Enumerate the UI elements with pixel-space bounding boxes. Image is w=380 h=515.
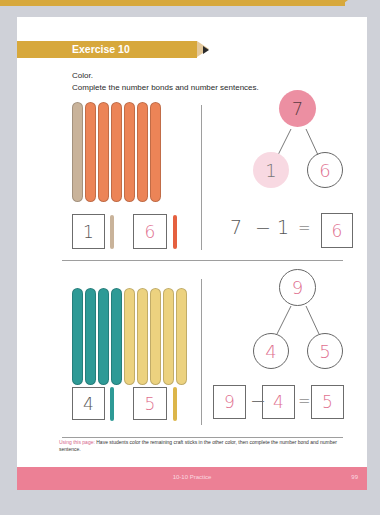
equals-sign: =	[298, 219, 311, 237]
bond-part-right-circle[interactable]: 6	[307, 152, 343, 188]
page-number: 99	[351, 474, 358, 480]
pencil-point-icon	[203, 46, 209, 54]
workbook-page: Exercise 10 Color. Complete the number b…	[17, 17, 367, 490]
sentence-whole-box[interactable]: 9	[213, 385, 246, 419]
bond-part-right-circle[interactable]: 5	[307, 333, 343, 369]
teacher-note: Using this page: Have students color the…	[59, 439, 359, 453]
craft-stick-orange	[150, 102, 161, 202]
previous-page-banner-edge	[0, 0, 345, 6]
equals-sign: =	[298, 392, 311, 410]
craft-stick-yellow	[163, 288, 174, 385]
bond-part-left-circle: 1	[253, 152, 289, 188]
exercise-title: Exercise 10	[72, 43, 130, 55]
teacher-note-lead: Using this page:	[59, 439, 95, 445]
bond-whole-circle[interactable]: 9	[279, 269, 316, 306]
instruction-color: Color.	[72, 71, 93, 80]
craft-stick-orange	[111, 102, 122, 202]
sentence-part: 1	[277, 216, 289, 238]
instruction-complete: Complete the number bonds and number sen…	[72, 83, 259, 92]
sentence-answer-box[interactable]: 6	[321, 213, 353, 248]
previous-page-banner-tip	[340, 0, 348, 6]
sentence-whole: 7	[230, 216, 242, 238]
craft-stick-yellow	[176, 288, 187, 385]
teacher-note-body: Have students color the remaining craft …	[59, 439, 337, 452]
craft-stick-orange	[124, 102, 135, 202]
craft-stick-yellow	[137, 288, 148, 385]
craft-stick-teal	[111, 288, 122, 385]
answer-box-part-b[interactable]: 6	[133, 214, 167, 249]
color-key-tan	[110, 215, 114, 249]
craft-stick-yellow	[124, 288, 135, 385]
sentence-part-box[interactable]: 4	[262, 385, 295, 419]
sentence-answer-box[interactable]: 5	[311, 385, 344, 419]
craft-stick-orange	[85, 102, 96, 202]
answer-box-part-b[interactable]: 5	[133, 387, 167, 420]
craft-stick-yellow	[150, 288, 161, 385]
craft-stick-tan	[72, 102, 83, 202]
craft-stick-teal	[98, 288, 109, 385]
color-key-orange	[173, 215, 177, 249]
page-footer: 10-10 Practice 99	[17, 467, 367, 490]
section-divider-horizontal	[62, 260, 343, 261]
craft-stick-teal	[72, 288, 83, 385]
craft-stick-teal	[85, 288, 96, 385]
answer-box-part-a[interactable]: 4	[72, 387, 105, 420]
craft-stick-orange	[137, 102, 148, 202]
section-divider-horizontal	[62, 437, 343, 438]
section-divider-vertical	[201, 279, 202, 425]
color-key-teal	[110, 387, 114, 421]
section-divider-vertical	[201, 105, 202, 250]
minus-sign: −	[255, 216, 271, 238]
bond-whole-circle: 7	[279, 90, 316, 127]
color-key-yellow	[173, 387, 177, 421]
footer-lesson-title: 10-10 Practice	[17, 474, 367, 480]
craft-stick-orange	[98, 102, 109, 202]
answer-box-part-a[interactable]: 1	[72, 214, 105, 249]
bond-part-left-circle[interactable]: 4	[253, 333, 289, 369]
